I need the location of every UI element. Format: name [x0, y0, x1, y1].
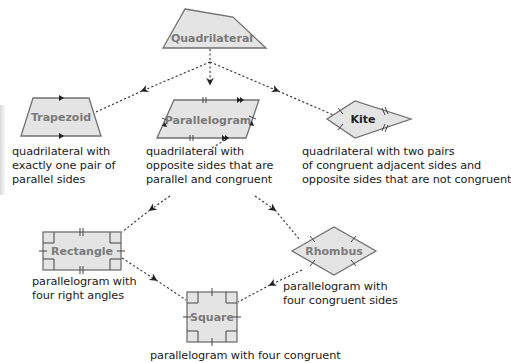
- desc-square: parallelogram with four congruent: [150, 349, 341, 363]
- desc-line: four congruent sides: [283, 294, 398, 308]
- node-trapezoid: Trapezoid: [21, 95, 101, 139]
- desc-line: exactly one pair of: [12, 159, 115, 173]
- label-quadrilateral: Quadrilateral: [171, 32, 253, 45]
- node-kite: Kite: [327, 101, 411, 138]
- desc-line: parallelogram with: [283, 280, 398, 294]
- desc-line: four right angles: [32, 289, 136, 303]
- label-parallelogram: Parallelogram: [165, 114, 252, 127]
- desc-line: parallel sides: [12, 173, 115, 187]
- desc-line: opposite sides that are not congruent: [302, 173, 511, 187]
- edge-quadrilateral-kite: [210, 62, 278, 91]
- label-kite: Kite: [350, 113, 375, 126]
- node-rectangle: Rectangle: [39, 228, 125, 274]
- label-rhombus: Rhombus: [305, 245, 363, 258]
- label-trapezoid: Trapezoid: [31, 111, 91, 124]
- label-square: Square: [190, 311, 234, 324]
- desc-line: parallelogram with: [32, 275, 136, 289]
- node-rhombus: Rhombus: [292, 227, 376, 275]
- desc-rhombus: parallelogram with four congruent sides: [283, 280, 398, 308]
- node-quadrilateral: Quadrilateral: [163, 9, 266, 48]
- desc-line: quadrilateral with two pairs: [302, 145, 511, 159]
- desc-line: of congruent adjacent sides and: [302, 159, 511, 173]
- label-rectangle: Rectangle: [51, 245, 113, 258]
- desc-line: quadrilateral with: [12, 145, 115, 159]
- desc-line: parallel and congruent: [146, 173, 273, 187]
- desc-kite: quadrilateral with two pairs of congruen…: [302, 145, 511, 187]
- edge-parallelogram-rectangle: [150, 196, 170, 210]
- desc-trapezoid: quadrilateral with exactly one pair of p…: [12, 145, 115, 187]
- desc-line: quadrilateral with: [146, 145, 273, 159]
- node-parallelogram: Parallelogram: [157, 97, 259, 141]
- edge-quadrilateral-trapezoid: [142, 62, 210, 91]
- edge-parallelogram-rhombus: [255, 196, 275, 210]
- desc-line: opposite sides that are: [146, 159, 273, 173]
- desc-parallelogram: quadrilateral with opposite sides that a…: [146, 145, 273, 187]
- desc-rectangle: parallelogram with four right angles: [32, 275, 136, 303]
- desc-line: parallelogram with four congruent: [150, 349, 341, 363]
- node-square: Square: [183, 288, 241, 346]
